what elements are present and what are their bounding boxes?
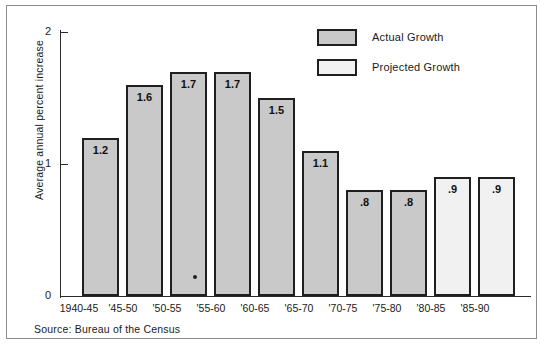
- bar-70-75: .8: [346, 190, 383, 296]
- bar-45-50: 1.6: [126, 85, 163, 296]
- bar-value-65-70: 1.1: [304, 157, 337, 169]
- bar-80-85: .9: [434, 177, 471, 296]
- source-note: Source: Bureau of the Census: [34, 323, 180, 335]
- bar-value-50-55: 1.7: [172, 78, 205, 90]
- bar-value-60-65: 1.5: [260, 104, 293, 116]
- plot-area: 1.2 1.6 1.7 1.7 1.5: [60, 32, 530, 296]
- bar-1940-45: 1.2: [82, 138, 119, 296]
- bar-value-85-90: .9: [480, 183, 513, 195]
- bar-slot-60-65: 1.5: [255, 32, 299, 296]
- y-axis-title: Average annual percent increase: [33, 25, 45, 215]
- chart-figure: Actual Growth Projected Growth 2 1 0 Ave…: [0, 0, 544, 345]
- y-tick-label-0: 0: [29, 290, 51, 301]
- bar-value-55-60: 1.7: [216, 78, 249, 90]
- x-axis-line: [60, 296, 531, 297]
- bar-slot-75-80: .8: [387, 32, 431, 296]
- bar-slot-1940-45: 1.2: [79, 32, 123, 296]
- bar-value-75-80: .8: [392, 196, 425, 208]
- baseline-marker-dot: [193, 275, 197, 279]
- bar-slot-70-75: .8: [343, 32, 387, 296]
- bar-50-55: 1.7: [170, 72, 207, 296]
- bar-60-65: 1.5: [258, 98, 295, 296]
- x-tick-label-85-90: '85-90: [445, 303, 505, 314]
- bar-65-70: 1.1: [302, 151, 339, 296]
- bar-75-80: .8: [390, 190, 427, 296]
- bar-85-90: .9: [478, 177, 515, 296]
- bar-slot-65-70: 1.1: [299, 32, 343, 296]
- bar-value-80-85: .9: [436, 183, 469, 195]
- bar-slot-85-90: .9: [475, 32, 519, 296]
- bar-slot-45-50: 1.6: [123, 32, 167, 296]
- bar-slot-50-55: 1.7: [167, 32, 211, 296]
- bar-slot-80-85: .9: [431, 32, 475, 296]
- bar-55-60: 1.7: [214, 72, 251, 296]
- bar-value-1940-45: 1.2: [84, 144, 117, 156]
- bar-slot-55-60: 1.7: [211, 32, 255, 296]
- y-tick-0: [61, 296, 68, 297]
- bar-value-70-75: .8: [348, 196, 381, 208]
- figure-frame: Actual Growth Projected Growth 2 1 0 Ave…: [6, 5, 537, 339]
- bar-value-45-50: 1.6: [128, 91, 161, 103]
